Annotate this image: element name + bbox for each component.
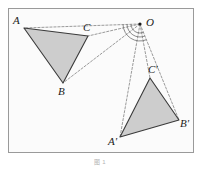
vertex-label-b: B [58,85,65,97]
figure-canvas: ABCA'B'C'O [0,0,201,170]
rotation-figure: ABCA'B'C'O 图 1 [0,0,201,170]
rotation-center-label: O [146,16,154,28]
vertex-label-a: A [12,14,20,26]
vertex-label-c: C [83,21,91,33]
rotation-center-dot [138,22,141,25]
vertex-label-c-prime: C' [148,63,158,75]
vertex-label-a-prime: A' [107,135,118,147]
vertex-label-b-prime: B' [180,117,190,129]
